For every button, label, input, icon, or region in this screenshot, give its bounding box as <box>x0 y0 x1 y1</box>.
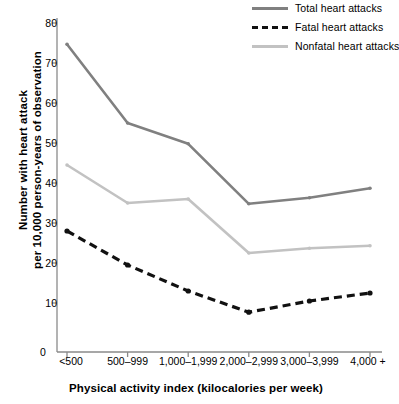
series-0 <box>65 42 372 205</box>
y-axis-title-line1: Number with heart attack <box>16 26 30 294</box>
x-tick-label: <500 <box>59 355 83 367</box>
x-tick-label: 4,000 + <box>350 355 385 367</box>
x-tick-label: 1,000–1,999 <box>159 355 217 367</box>
x-tick-label: 2,000–2,999 <box>220 355 278 367</box>
x-axis-tick-labels: <500500–9991,000–1,9992,000–2,9993,000–3… <box>0 355 392 371</box>
y-tick-label: 10 <box>31 298 57 308</box>
y-axis-title: Number with heart attack per 10,000 pers… <box>16 26 44 294</box>
y-axis-title-line2: per 10,000 person-years of observation <box>30 26 44 294</box>
x-tick-label: 500–999 <box>107 355 148 367</box>
series-1 <box>64 228 372 314</box>
series-2 <box>65 163 372 255</box>
x-axis-title: Physical activity index (kilocalories pe… <box>0 382 392 394</box>
x-tick-label: 3,000–3,999 <box>280 355 338 367</box>
